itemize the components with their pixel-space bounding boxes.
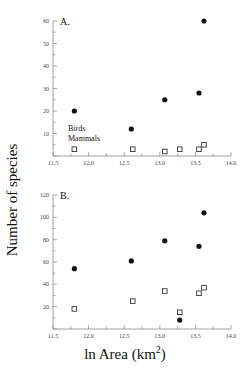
birds-annotation: Birds	[68, 124, 85, 133]
y-tick-label: 10	[43, 131, 49, 137]
scatter-plot-figure: 10203040506011.512.012.513.013.514.0A.Bi…	[0, 0, 250, 381]
bird-point	[177, 317, 182, 322]
mammal-point	[162, 149, 167, 154]
mammal-point	[72, 147, 77, 152]
mammal-point	[197, 147, 202, 152]
x-axis-label-text: ln Area (km	[84, 346, 156, 362]
y-axis-label: Number of species	[4, 120, 20, 280]
x-tick-label: 11.5	[48, 160, 58, 166]
x-tick-label: 12.5	[119, 333, 130, 339]
y-tick-label: 80	[43, 237, 49, 243]
mammal-point	[197, 291, 202, 296]
mammal-point	[177, 147, 182, 152]
mammal-point	[130, 299, 135, 304]
bird-point	[196, 90, 201, 95]
y-tick-label: 60	[43, 18, 49, 24]
panel-a: 10203040506011.512.012.513.013.514.0A.Bi…	[43, 16, 236, 166]
bird-point	[129, 258, 134, 263]
x-axis-label-close: )	[161, 346, 166, 362]
mammal-point	[202, 142, 207, 147]
x-tick-label: 12.0	[83, 160, 94, 166]
y-tick-label: 30	[43, 86, 49, 92]
x-tick-label: 12.5	[119, 160, 130, 166]
x-tick-label: 13.5	[190, 160, 201, 166]
mammal-point	[177, 310, 182, 315]
mammal-point	[130, 147, 135, 152]
x-tick-label: 14.0	[226, 333, 237, 339]
mammal-point	[72, 307, 77, 312]
bird-point	[201, 18, 206, 23]
panel-label: B.	[60, 190, 69, 201]
x-tick-label: 13.5	[190, 333, 201, 339]
y-tick-label: 50	[43, 41, 49, 47]
x-tick-label: 12.0	[83, 333, 94, 339]
y-tick-label: 100	[40, 214, 49, 220]
mammals-annotation: Mammals	[68, 134, 100, 143]
bird-point	[201, 210, 206, 215]
mammal-point	[202, 285, 207, 290]
bird-point	[129, 126, 134, 131]
x-tick-label: 14.0	[226, 160, 237, 166]
panel-b: 2040608010012011.512.012.513.013.514.0B.	[40, 190, 236, 339]
y-tick-label: 20	[43, 108, 49, 114]
y-tick-label: 60	[43, 259, 49, 265]
y-tick-label: 40	[43, 281, 49, 287]
bird-point	[162, 97, 167, 102]
x-tick-label: 11.5	[48, 333, 58, 339]
bird-point	[72, 266, 77, 271]
bird-point	[196, 244, 201, 249]
x-axis-label: ln Area (km2)	[0, 344, 250, 363]
y-tick-label: 40	[43, 63, 49, 69]
panel-label: A.	[60, 16, 70, 27]
bird-point	[162, 238, 167, 243]
y-tick-label: 20	[43, 304, 49, 310]
mammal-point	[162, 289, 167, 294]
y-tick-label: 120	[40, 192, 49, 198]
y-axis-label-text: Number of species	[4, 144, 21, 256]
bird-point	[72, 108, 77, 113]
x-tick-label: 13.0	[155, 333, 166, 339]
x-tick-label: 13.0	[155, 160, 166, 166]
